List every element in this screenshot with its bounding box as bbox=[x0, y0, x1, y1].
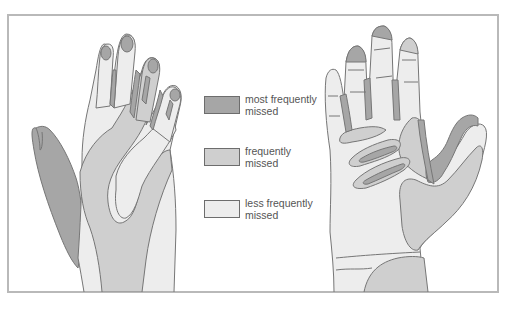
left-hand-back-view bbox=[32, 34, 181, 292]
legend-item-frequently-missed: frequently missed bbox=[204, 145, 325, 169]
legend-label: less frequently missed bbox=[245, 197, 325, 221]
legend-item-less-frequently-missed: less frequently missed bbox=[204, 197, 325, 221]
legend-label-line2: missed bbox=[245, 157, 278, 169]
left-nail-1 bbox=[101, 46, 111, 60]
legend: most frequently missed frequently missed… bbox=[204, 0, 334, 309]
legend-item-most-frequently-missed: most frequently missed bbox=[204, 93, 325, 117]
legend-swatch-dark bbox=[204, 96, 240, 114]
left-nail-4 bbox=[170, 89, 180, 101]
left-nail-2 bbox=[121, 36, 133, 52]
right-hand-palm-view bbox=[325, 26, 486, 292]
legend-label-line2: missed bbox=[245, 209, 278, 221]
legend-label-line1: most frequently bbox=[245, 93, 317, 105]
right-fingertip-2 bbox=[346, 46, 366, 62]
legend-label-line1: frequently bbox=[245, 145, 291, 157]
legend-swatch-medium bbox=[204, 148, 240, 166]
legend-label-line2: missed bbox=[245, 105, 278, 117]
left-nail-3 bbox=[148, 59, 158, 73]
legend-label-line1: less frequently bbox=[245, 197, 313, 209]
legend-label: most frequently missed bbox=[245, 93, 325, 117]
legend-swatch-light bbox=[204, 200, 240, 218]
legend-label: frequently missed bbox=[245, 145, 325, 169]
